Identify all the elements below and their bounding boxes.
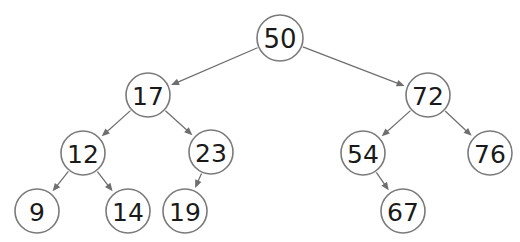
edge-arrowhead-icon [381,182,388,191]
tree-node[interactable]: 54 [341,131,385,175]
tree-node[interactable]: 17 [126,73,170,117]
node-label: 72 [412,82,444,111]
tree-edge [445,111,472,136]
tree-canvas: 501772122354769141967 [0,0,520,242]
tree-node[interactable]: 50 [257,15,303,61]
tree-edge [171,48,257,85]
tree-node[interactable]: 12 [61,131,105,175]
node-label: 9 [29,198,45,227]
node-label: 23 [195,139,227,168]
tree-edge [382,111,411,137]
node-label: 17 [132,82,164,111]
tree-edge [165,111,192,135]
tree-edge [53,171,69,191]
tree-node[interactable]: 19 [163,189,207,233]
tree-edge [376,172,388,190]
tree-edge [195,174,201,189]
node-label: 19 [169,198,201,227]
nodes-layer: 501772122354769141967 [15,15,512,233]
edge-arrowhead-icon [105,183,113,191]
node-label: 50 [263,24,296,54]
binary-search-tree-diagram: 501772122354769141967 [0,0,520,242]
tree-edge [97,172,112,192]
tree-node[interactable]: 72 [406,73,450,117]
tree-node[interactable]: 9 [15,189,59,233]
edge-arrowhead-icon [396,80,405,86]
tree-node[interactable]: 14 [106,189,150,233]
tree-node[interactable]: 67 [381,189,425,233]
node-label: 76 [474,140,506,169]
node-label: 12 [67,140,99,169]
node-label: 54 [347,140,379,169]
node-label: 14 [112,198,144,227]
tree-edge [102,111,131,137]
tree-node[interactable]: 23 [189,130,233,174]
edge-arrowhead-icon [53,183,61,191]
tree-node[interactable]: 76 [468,131,512,175]
tree-edge [303,47,405,86]
node-label: 67 [387,198,419,227]
edges-layer [53,47,472,192]
